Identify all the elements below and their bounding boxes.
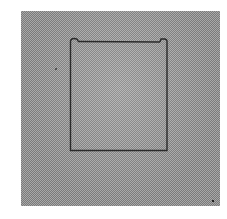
- corner-speck: [212, 200, 214, 202]
- sheet-outline: [71, 39, 168, 151]
- sheet-outline-figure: [0, 0, 227, 219]
- left-curl-icon: [71, 39, 79, 42]
- speck: [55, 68, 57, 70]
- right-curl-icon: [160, 39, 167, 42]
